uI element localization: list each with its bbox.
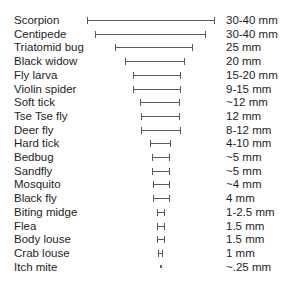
- chart-row: Violin spider9-15 mm: [0, 82, 288, 96]
- size-value-label: ~.25 mm: [226, 260, 271, 274]
- size-dot: [160, 265, 162, 268]
- chart-row: Fly larva15-20 mm: [0, 68, 288, 82]
- category-label: Triatomid bug: [14, 40, 84, 54]
- chart-row: Tse Tse fly12 mm: [0, 109, 288, 123]
- category-label: Crab louse: [14, 246, 70, 260]
- size-range-bar: [157, 226, 165, 227]
- category-label: Black fly: [14, 191, 57, 205]
- size-value-label: 25 mm: [226, 40, 261, 54]
- chart-row: Soft tick~12 mm: [0, 95, 288, 109]
- size-value-label: 1-2.5 mm: [226, 205, 275, 219]
- category-label: Itch mite: [14, 260, 57, 274]
- size-value-label: 1 mm: [226, 246, 255, 260]
- size-value-label: 15-20 mm: [226, 68, 278, 82]
- size-value-label: 1.5 mm: [226, 219, 264, 233]
- size-range-bar: [158, 253, 163, 254]
- size-value-label: 30-40 mm: [226, 13, 278, 27]
- chart-row: Black fly4 mm: [0, 191, 288, 205]
- size-value-label: 30-40 mm: [226, 27, 278, 41]
- category-label: Soft tick: [14, 95, 55, 109]
- category-label: Hard tick: [14, 136, 59, 150]
- size-range-bar: [133, 89, 181, 90]
- category-label: Mosquito: [14, 177, 61, 191]
- size-range-bar: [152, 157, 170, 158]
- size-range-bar: [150, 143, 171, 144]
- category-label: Centipede: [14, 27, 66, 41]
- size-value-label: 4-10 mm: [226, 136, 271, 150]
- size-range-bar: [87, 20, 215, 21]
- category-label: Fly larva: [14, 68, 57, 82]
- category-label: Flea: [14, 219, 36, 233]
- size-range-bar: [141, 116, 180, 117]
- chart-row: Black widow20 mm: [0, 54, 288, 68]
- size-range-bar: [152, 171, 170, 172]
- size-value-label: 9-15 mm: [226, 82, 271, 96]
- chart-row: Hard tick4-10 mm: [0, 136, 288, 150]
- size-range-bar: [157, 239, 165, 240]
- size-range-bar: [140, 102, 180, 103]
- size-range-bar: [95, 34, 206, 35]
- size-range-bar: [153, 198, 170, 199]
- chart-row: Sandfly~5 mm: [0, 164, 288, 178]
- size-value-label: 1.5 mm: [226, 232, 264, 246]
- size-range-bar: [141, 130, 181, 131]
- category-label: Biting midge: [14, 205, 77, 219]
- category-label: Deer fly: [14, 123, 54, 137]
- chart-row: Biting midge1-2.5 mm: [0, 205, 288, 219]
- chart-row: Bedbug~5 mm: [0, 150, 288, 164]
- size-range-bar: [125, 61, 185, 62]
- size-value-label: ~5 mm: [226, 164, 261, 178]
- category-label: Tse Tse fly: [14, 109, 67, 123]
- chart-row: Flea1.5 mm: [0, 219, 288, 233]
- chart-row: Centipede30-40 mm: [0, 27, 288, 41]
- size-value-label: 4 mm: [226, 191, 255, 205]
- category-label: Body louse: [14, 232, 71, 246]
- size-value-label: 20 mm: [226, 54, 261, 68]
- chart-row: Itch mite~.25 mm: [0, 260, 288, 274]
- size-range-chart: Scorpion30-40 mmCentipede30-40 mmTriatom…: [0, 0, 288, 289]
- chart-row: Scorpion30-40 mm: [0, 13, 288, 27]
- category-label: Sandfly: [14, 164, 52, 178]
- chart-row: Body louse1.5 mm: [0, 232, 288, 246]
- chart-row: Crab louse1 mm: [0, 246, 288, 260]
- size-value-label: ~5 mm: [226, 150, 261, 164]
- size-value-label: 12 mm: [226, 109, 261, 123]
- category-label: Scorpion: [14, 13, 59, 27]
- chart-row: Deer fly8-12 mm: [0, 123, 288, 137]
- size-range-bar: [153, 184, 170, 185]
- size-range-bar: [157, 212, 165, 213]
- size-range-bar: [115, 47, 193, 48]
- chart-row: Mosquito~4 mm: [0, 177, 288, 191]
- chart-row: Triatomid bug25 mm: [0, 40, 288, 54]
- size-range-bar: [133, 75, 181, 76]
- size-value-label: ~4 mm: [226, 177, 261, 191]
- size-value-label: ~12 mm: [226, 95, 268, 109]
- category-label: Bedbug: [14, 150, 54, 164]
- size-value-label: 8-12 mm: [226, 123, 271, 137]
- category-label: Violin spider: [14, 82, 76, 96]
- category-label: Black widow: [14, 54, 77, 68]
